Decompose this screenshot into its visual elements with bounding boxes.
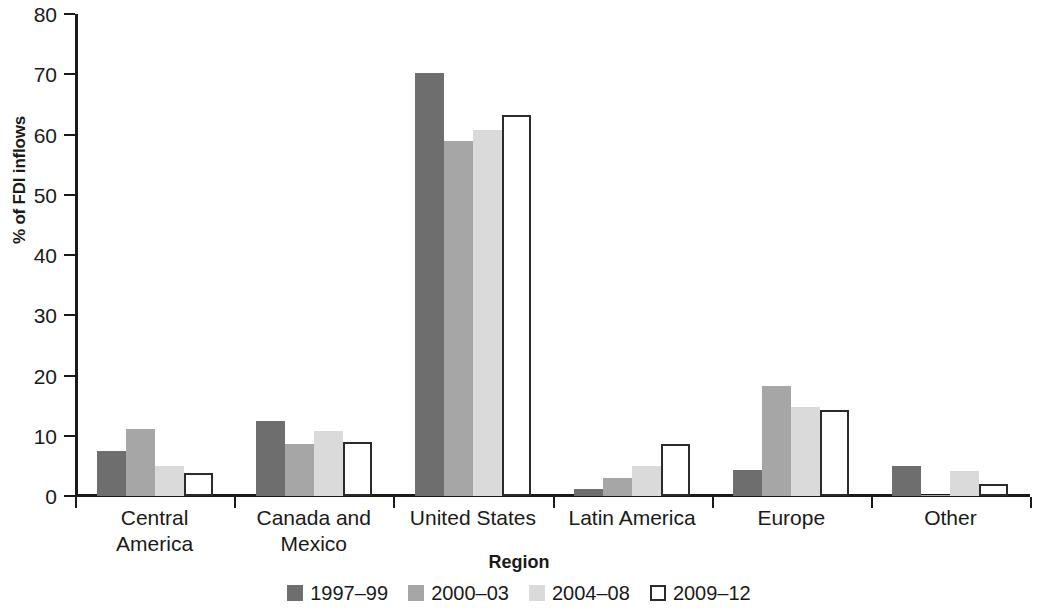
bar bbox=[444, 141, 473, 496]
bar-fill bbox=[892, 466, 921, 496]
bar-fill bbox=[632, 466, 661, 496]
x-axis-category-label: Canada andMexico bbox=[234, 505, 393, 556]
bar-fill bbox=[256, 421, 285, 496]
bar-fill bbox=[97, 451, 126, 496]
bar bbox=[343, 442, 372, 496]
legend-item[interactable]: 2004–08 bbox=[529, 583, 630, 603]
legend-item[interactable]: 2000–03 bbox=[408, 583, 509, 603]
bar-fill bbox=[820, 410, 849, 496]
legend-item[interactable]: 2009–12 bbox=[650, 583, 751, 603]
y-axis-title: % of FDI inflows bbox=[10, 80, 30, 280]
legend-swatch-icon bbox=[287, 585, 303, 601]
bar bbox=[155, 466, 184, 496]
bar bbox=[791, 407, 820, 496]
bar bbox=[574, 489, 603, 496]
x-axis-category-label: Other bbox=[871, 505, 1030, 531]
bar-group bbox=[892, 14, 1008, 496]
bar-group bbox=[256, 14, 372, 496]
bar bbox=[979, 484, 1008, 496]
bar-fill bbox=[762, 386, 791, 496]
bar-group bbox=[733, 14, 849, 496]
bar-fill bbox=[285, 444, 314, 496]
bar-fill bbox=[661, 444, 690, 496]
y-axis-tick-label-text: 80 bbox=[34, 3, 57, 27]
bar bbox=[184, 473, 213, 496]
x-axis-category-label-line: Other bbox=[871, 505, 1030, 531]
bar-fill bbox=[979, 484, 1008, 496]
legend-label: 2004–08 bbox=[552, 583, 630, 603]
y-axis-tick bbox=[64, 254, 75, 256]
x-axis-category-label-line: United States bbox=[393, 505, 552, 531]
bar bbox=[502, 115, 531, 496]
bar bbox=[950, 471, 979, 496]
legend-label: 1997–99 bbox=[310, 583, 388, 603]
bar-fill bbox=[444, 141, 473, 496]
y-axis-tick bbox=[64, 375, 75, 377]
bar-fill bbox=[473, 130, 502, 496]
legend-swatch-icon bbox=[529, 585, 545, 601]
x-axis-category-label-line: Central bbox=[75, 505, 234, 531]
bar bbox=[97, 451, 126, 496]
y-axis-tick-label-text: 50 bbox=[34, 184, 57, 208]
bar bbox=[285, 444, 314, 496]
x-axis-category-label-line: Canada and bbox=[234, 505, 393, 531]
bar-fill bbox=[155, 466, 184, 496]
y-axis-tick bbox=[64, 314, 75, 316]
bar bbox=[820, 410, 849, 496]
bar-fill bbox=[415, 73, 444, 496]
bar bbox=[661, 444, 690, 496]
legend-label: 2000–03 bbox=[431, 583, 509, 603]
x-axis-category-label: Europe bbox=[712, 505, 871, 531]
bar bbox=[733, 470, 762, 496]
bar bbox=[314, 431, 343, 496]
bar-fill bbox=[184, 473, 213, 496]
bar bbox=[256, 421, 285, 496]
y-axis-tick bbox=[64, 134, 75, 136]
x-axis-category-label-line: Europe bbox=[712, 505, 871, 531]
y-axis-tick bbox=[64, 435, 75, 437]
legend-swatch-icon bbox=[650, 585, 666, 601]
y-axis-tick-label-text: 70 bbox=[34, 63, 57, 87]
bar bbox=[603, 478, 632, 496]
bar-group bbox=[97, 14, 213, 496]
bar bbox=[473, 130, 502, 496]
y-axis-tick bbox=[64, 13, 75, 15]
y-axis-tick bbox=[64, 73, 75, 75]
bar-fill bbox=[950, 471, 979, 496]
y-axis-tick bbox=[64, 194, 75, 196]
y-axis-tick bbox=[64, 495, 75, 497]
bar bbox=[632, 466, 661, 496]
bar-fill bbox=[921, 495, 950, 496]
bar-fill bbox=[314, 431, 343, 496]
chart-legend: 1997–992000–032004–082009–12 bbox=[0, 583, 1038, 603]
legend-swatch-icon bbox=[408, 585, 424, 601]
bar-fill bbox=[574, 489, 603, 496]
x-axis-category-label: CentralAmerica bbox=[75, 505, 234, 556]
legend-item[interactable]: 1997–99 bbox=[287, 583, 388, 603]
x-axis-title: Region bbox=[0, 552, 1038, 573]
bar-chart-figure: % of FDI inflows 01020304050607080 Centr… bbox=[0, 0, 1038, 613]
bar-fill bbox=[502, 115, 531, 496]
y-axis-tick-label-text: 60 bbox=[34, 124, 57, 148]
bar bbox=[892, 466, 921, 496]
legend-label: 2009–12 bbox=[673, 583, 751, 603]
bar-group bbox=[574, 14, 690, 496]
bar bbox=[921, 495, 950, 496]
bar-fill bbox=[343, 442, 372, 496]
y-axis-tick-label-text: 40 bbox=[34, 244, 57, 268]
bars-layer bbox=[75, 14, 1030, 496]
y-axis-tick-label-text: 0 bbox=[45, 485, 57, 509]
y-axis-tick-label-text: 20 bbox=[34, 365, 57, 389]
bar bbox=[126, 429, 155, 496]
bar bbox=[415, 73, 444, 496]
x-axis-category-label: United States bbox=[393, 505, 552, 531]
bar-fill bbox=[603, 478, 632, 496]
x-axis-category-label-line: Latin America bbox=[553, 505, 712, 531]
y-axis-tick-label-text: 10 bbox=[34, 425, 57, 449]
bar-fill bbox=[791, 407, 820, 496]
bar-group bbox=[415, 14, 531, 496]
bar-fill bbox=[733, 470, 762, 496]
bar-fill bbox=[126, 429, 155, 496]
x-axis-category-label: Latin America bbox=[553, 505, 712, 531]
y-axis-tick-label-text: 30 bbox=[34, 304, 57, 328]
